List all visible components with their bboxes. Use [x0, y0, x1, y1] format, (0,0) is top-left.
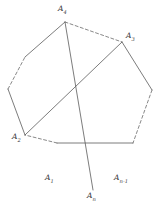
- polygon-edge-A4-A3: [65, 22, 122, 42]
- polygon-edge-V_r1-An-1: [133, 90, 152, 143]
- polygon-edge-V_l2-A4: [25, 22, 65, 57]
- vertex-label-a1: A1: [45, 174, 54, 184]
- polygon-diagonal-group: [25, 22, 122, 190]
- vertex-label-a2: A2: [12, 133, 21, 143]
- diagonal-A4-An: [65, 22, 93, 190]
- geometry-figure: A4 A3 A2 A1 An An-1: [0, 0, 164, 220]
- polygon-edge-A3-V_r1: [122, 42, 152, 90]
- diagonal-A2-A3: [25, 42, 122, 135]
- vertex-label-an: An: [87, 192, 96, 202]
- vertex-label-a4: A4: [58, 5, 67, 15]
- vertex-label-a3: A3: [126, 32, 135, 42]
- polygon-drawing: [0, 0, 164, 220]
- polygon-edge-V_l1-V_l2: [8, 57, 25, 89]
- vertex-label-an-minus-1: An-1: [114, 174, 128, 184]
- polygon-edge-A2-V_l1: [8, 89, 25, 135]
- polygon-edge-A1-A2: [25, 135, 57, 143]
